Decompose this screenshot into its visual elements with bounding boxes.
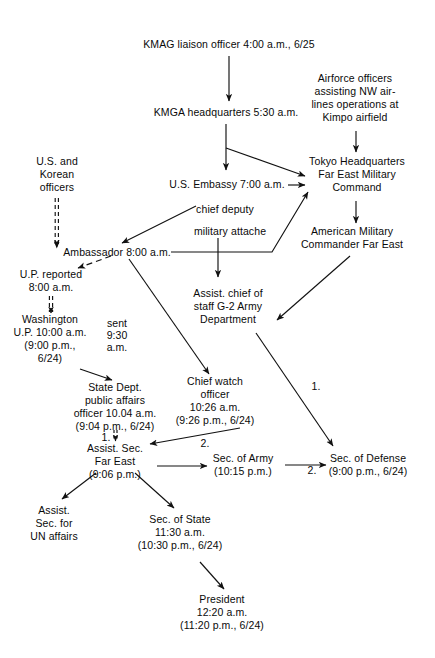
node-military-attache: military attache: [194, 225, 266, 238]
edge-label-two-army-to-defense: 2.: [308, 464, 317, 476]
node-kmag-liaison-officer: KMAG liaison officer 4:00 a.m., 6/25: [143, 38, 315, 51]
node-chief-deputy: chief deputy: [196, 203, 254, 216]
node-ambassador: Ambassador 8:00 a.m.: [63, 246, 171, 259]
node-state-dept-public-affairs: State Dept. public affairs officer 10.04…: [74, 381, 157, 433]
edge-commander-to-g2: [277, 256, 350, 320]
edge-washington-to-state-dept: [80, 369, 112, 380]
node-washington-up: Washington U.P. 10:00 a.m. (9:00 p.m., 6…: [13, 313, 86, 365]
edge-kmga-to-tokyo: [226, 148, 305, 176]
node-up-reported: U.P. reported 8:00 a.m.: [20, 268, 82, 294]
node-tokyo-headquarters: Tokyo Headquarters Far East Military Com…: [309, 155, 405, 194]
edge-sec-state-to-president: [200, 562, 224, 589]
edge-label-sent-930am: sent 9:30 a.m.: [107, 317, 127, 353]
edge-g2-to-sec-defense: [256, 333, 333, 446]
node-sec-of-defense: Sec. of Defense (9:00 p.m., 6/24): [329, 452, 408, 478]
edge-label-one-state-to-assist: 1.: [102, 431, 111, 443]
edge-label-two-watch-to-assist: 2.: [201, 437, 210, 449]
edge-up-to-washington: [49, 296, 52, 313]
node-us-and-korean-officers: U.S. and Korean officers: [36, 155, 78, 194]
node-airforce-officers: Airforce officers assisting NW air- line…: [311, 72, 398, 124]
node-sec-of-state: Sec. of State 11:30 a.m. (10:30 p.m., 6/…: [138, 513, 223, 552]
node-sec-of-army: Sec. of Army (10:15 p.m.): [213, 452, 274, 478]
node-kmga-headquarters: KMGA headquarters 5:30 a.m.: [154, 106, 299, 119]
node-american-military-commander: American Military Commander Far East: [301, 225, 403, 251]
edge-label-one-g2-to-defense: 1.: [312, 380, 321, 392]
node-chief-watch-officer: Chief watch officer 10:26 a.m. (9:26 p.m…: [176, 375, 255, 427]
node-assist-sec-far-east: Assist. Sec. Far East (9:06 p.m.): [87, 442, 143, 481]
node-president: President 12:20 a.m. (11:20 p.m., 6/24): [180, 593, 264, 632]
node-assist-sec-un-affairs: Assist. Sec. for UN affairs: [30, 504, 78, 543]
edge-usk-to-ambassador: [55, 198, 58, 248]
node-us-embassy: U.S. Embassy 7:00 a.m.: [169, 178, 284, 191]
flowchart-page: KMAG liaison officer 4:00 a.m., 6/25 KMG…: [0, 0, 435, 658]
edge-deputy-to-ambassador: [122, 206, 196, 243]
edge-ambassador-to-tokyo: [171, 192, 308, 252]
node-assist-chief-of-staff-g2: Assist. chief of staff G-2 Army Departme…: [193, 287, 262, 326]
edge-chief-watch-to-assist-sec: [150, 428, 240, 444]
